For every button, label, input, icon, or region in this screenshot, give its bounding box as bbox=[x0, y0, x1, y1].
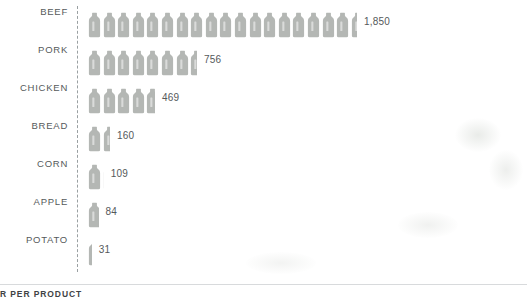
footer-divider bbox=[0, 284, 527, 285]
pictogram-row: APPLE84 bbox=[0, 196, 527, 234]
row-category-label: CORN bbox=[0, 158, 68, 169]
bottle-icon bbox=[88, 164, 103, 190]
bottle-icon bbox=[146, 50, 161, 76]
row-category-label: BEEF bbox=[0, 6, 68, 17]
bottle-icon bbox=[161, 50, 176, 76]
bottle-icon-partial bbox=[103, 164, 105, 190]
bottle-icon bbox=[205, 12, 220, 38]
bottle-icon bbox=[117, 88, 132, 114]
bottle-icon-partial bbox=[351, 12, 358, 38]
bottle-icon bbox=[263, 12, 278, 38]
bottle-icon bbox=[88, 126, 103, 152]
bottle-icon bbox=[88, 12, 103, 38]
row-icon-group bbox=[88, 240, 92, 266]
row-value-label: 1,850 bbox=[364, 16, 390, 27]
bottle-icon bbox=[278, 12, 293, 38]
bottle-icon bbox=[103, 50, 118, 76]
bottle-icon bbox=[132, 88, 147, 114]
bottle-icon bbox=[117, 12, 132, 38]
row-value-label: 469 bbox=[162, 92, 179, 103]
row-category-label: APPLE bbox=[0, 196, 68, 207]
pictogram-row: BEEF1,850 bbox=[0, 6, 527, 44]
bottle-icon-partial bbox=[146, 88, 155, 114]
bottle-icon bbox=[292, 12, 307, 38]
row-icon-group bbox=[88, 12, 357, 38]
row-category-label: PORK bbox=[0, 44, 68, 55]
pictogram-row: PORK756 bbox=[0, 44, 527, 82]
bottle-icon bbox=[88, 88, 103, 114]
bottle-icon-partial bbox=[88, 240, 92, 266]
row-category-label: POTATO bbox=[0, 234, 68, 245]
pictogram-row: CHICKEN469 bbox=[0, 82, 527, 120]
row-icon-group bbox=[88, 202, 99, 228]
row-icon-group bbox=[88, 126, 110, 152]
bottle-icon bbox=[88, 50, 103, 76]
bottle-icon bbox=[322, 12, 337, 38]
row-value-label: 160 bbox=[117, 130, 134, 141]
bottle-icon bbox=[176, 50, 191, 76]
bottle-icon bbox=[234, 12, 249, 38]
row-value-label: 109 bbox=[111, 168, 128, 179]
row-value-label: 31 bbox=[99, 244, 111, 255]
pictogram-row: CORN109 bbox=[0, 158, 527, 196]
bottle-icon bbox=[176, 12, 191, 38]
bottle-icon-partial bbox=[190, 50, 197, 76]
row-value-label: 84 bbox=[106, 206, 118, 217]
bottle-icon bbox=[103, 12, 118, 38]
bottle-icon bbox=[161, 12, 176, 38]
bottle-icon-partial bbox=[88, 202, 99, 228]
pictogram-row: BREAD160 bbox=[0, 120, 527, 158]
row-value-label: 756 bbox=[204, 54, 221, 65]
bottle-icon bbox=[117, 50, 132, 76]
pictogram-row: POTATO31 bbox=[0, 234, 527, 272]
bottle-icon bbox=[103, 88, 118, 114]
row-category-label: CHICKEN bbox=[0, 82, 68, 93]
bottle-icon bbox=[307, 12, 322, 38]
row-icon-group bbox=[88, 88, 155, 114]
pictogram-chart: BEEF1,850PORK756CHICKEN469BREAD160CORN10… bbox=[0, 0, 527, 299]
bottle-icon bbox=[190, 12, 205, 38]
bottle-icon-partial bbox=[103, 126, 111, 152]
chart-caption: R PER PRODUCT bbox=[0, 288, 527, 299]
row-category-label: BREAD bbox=[0, 120, 68, 131]
row-icon-group bbox=[88, 164, 104, 190]
bottle-icon bbox=[132, 50, 147, 76]
row-icon-group bbox=[88, 50, 197, 76]
bottle-icon bbox=[219, 12, 234, 38]
bottle-icon bbox=[336, 12, 351, 38]
bottle-icon bbox=[132, 12, 147, 38]
bottle-icon bbox=[146, 12, 161, 38]
bottle-icon bbox=[249, 12, 264, 38]
